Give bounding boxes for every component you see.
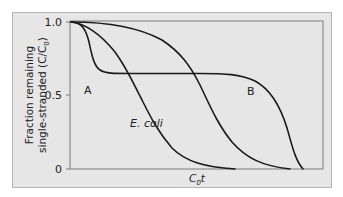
curve-a-b xyxy=(71,22,303,169)
y-tick-label-1: 1.0 xyxy=(45,16,63,29)
label-b: B xyxy=(247,85,255,98)
curve-e-coli xyxy=(71,22,235,169)
curve-unlabeled xyxy=(71,22,290,169)
y-axis-title-line1: Fraction remaining xyxy=(23,46,35,144)
chart-svg: 1.0 0.5 0 Fraction remaining single-stra… xyxy=(0,0,343,197)
curves-group xyxy=(71,22,303,169)
label-a: A xyxy=(84,84,92,97)
x-axis-title: C0t xyxy=(189,172,206,187)
y-tick-label-0: 0 xyxy=(55,163,62,176)
label-e-coli: E. coli xyxy=(130,117,163,130)
